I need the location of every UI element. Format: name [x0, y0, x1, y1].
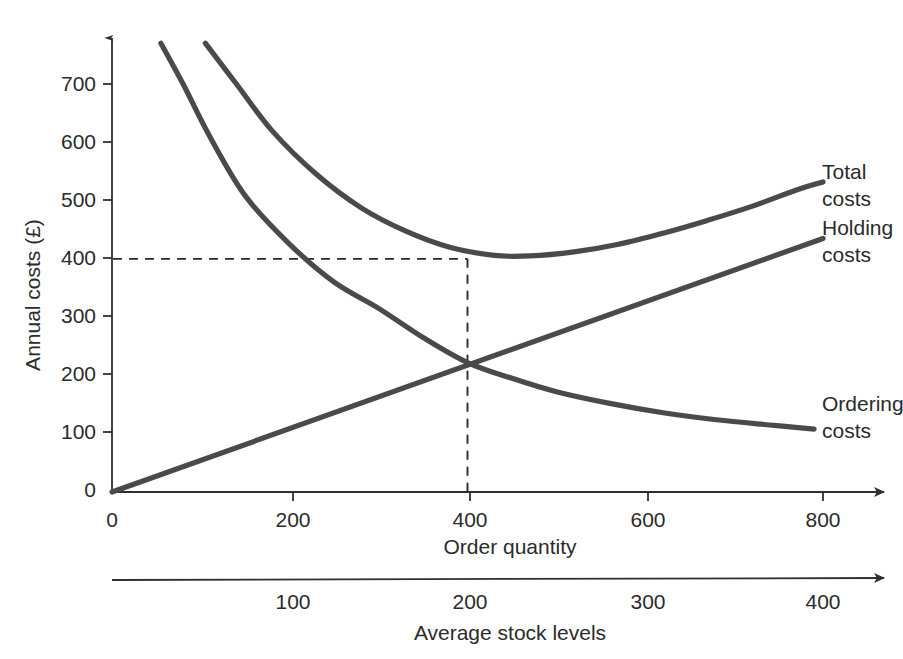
x-tick-label-400: 400	[452, 508, 487, 531]
ordering-costs-curve	[161, 43, 814, 429]
y-tick-label-700: 700	[61, 72, 96, 95]
eoq-guide-lines	[113, 259, 468, 492]
ordering-costs-label-line2: costs	[822, 419, 871, 442]
eoq-cost-chart: 700 600 500 400 300 200 100 0 Annual cos…	[0, 0, 903, 659]
secondary-tick-label-200: 200	[452, 590, 487, 613]
ordering-costs-label-line1: Ordering	[822, 392, 903, 415]
x-tick-label-600: 600	[630, 508, 665, 531]
y-tick-label-300: 300	[61, 304, 96, 327]
secondary-tick-label-100: 100	[275, 590, 310, 613]
x-tick-label-200: 200	[275, 508, 310, 531]
secondary-tick-label-300: 300	[630, 590, 665, 613]
secondary-axis-title: Average stock levels	[414, 621, 606, 644]
total-costs-curve-path	[205, 43, 823, 256]
y-tick-label-0: 0	[84, 478, 96, 501]
series-labels: Total costs Holding costs Ordering costs	[822, 160, 903, 442]
y-tick-label-100: 100	[61, 420, 96, 443]
x-axis-secondary: 100 200 300 400 Average stock levels	[112, 578, 884, 644]
y-tick-label-500: 500	[61, 188, 96, 211]
x-tick-label-0: 0	[106, 508, 118, 531]
chart-svg: 700 600 500 400 300 200 100 0 Annual cos…	[0, 0, 903, 659]
total-costs-label-line1: Total	[822, 160, 866, 183]
holding-costs-label-line1: Holding	[822, 216, 893, 239]
y-tick-label-200: 200	[61, 362, 96, 385]
secondary-tick-label-400: 400	[805, 590, 840, 613]
y-tick-label-400: 400	[61, 246, 96, 269]
x-axis-title: Order quantity	[443, 535, 577, 558]
y-axis: 700 600 500 400 300 200 100 0 Annual cos…	[21, 38, 112, 501]
secondary-axis-line	[112, 578, 884, 580]
x-tick-label-800: 800	[805, 508, 840, 531]
y-axis-title: Annual costs (£)	[21, 219, 44, 371]
total-costs-label-line2: costs	[822, 187, 871, 210]
y-tick-label-600: 600	[61, 130, 96, 153]
holding-costs-label-line2: costs	[822, 243, 871, 266]
x-axis-primary: 0 200 400 600 800 Order quantity	[106, 492, 884, 558]
